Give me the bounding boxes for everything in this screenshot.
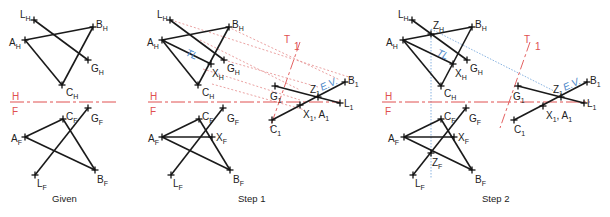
svg-text:AH: AH [386, 37, 398, 50]
svg-text:CH: CH [444, 88, 456, 101]
svg-text:CH: CH [202, 87, 214, 100]
svg-text:BF: BF [233, 174, 244, 187]
fold-label-h: H [385, 91, 392, 102]
top-view: LH BH AH GH CH [9, 9, 108, 100]
svg-text:LH: LH [157, 9, 168, 22]
front-view: CF GF AF XF ZF BF LF [388, 105, 486, 192]
svg-text:XF: XF [458, 132, 469, 145]
svg-text:GH: GH [470, 63, 483, 76]
svg-text:AF: AF [11, 133, 22, 146]
fold-label-1: 1 [294, 41, 300, 52]
svg-text:GH: GH [227, 63, 240, 76]
svg-text:AH: AH [147, 37, 159, 50]
fold-label-f: F [150, 106, 156, 117]
svg-text:CF: CF [444, 111, 456, 124]
svg-text:CF: CF [66, 111, 78, 124]
front-view: CF GF AF BF LF [11, 105, 108, 192]
svg-text:LF: LF [173, 178, 183, 191]
auxiliary-view: B1 Z1 E.V. G1 L1 X1, A1 C1 [269, 75, 359, 137]
svg-text:L1: L1 [587, 98, 597, 111]
svg-text:LF: LF [415, 178, 425, 191]
svg-text:LH: LH [398, 9, 409, 22]
caption-given: Given [52, 193, 77, 204]
fold-label-t: T [284, 34, 290, 45]
auxiliary-view: B1 Z1 E.V. G1 L1 X1, A1 C1 [511, 75, 601, 137]
svg-text:XF: XF [216, 132, 227, 145]
svg-text:C1: C1 [514, 124, 525, 137]
true-length-label: TL [435, 47, 450, 62]
svg-text:LF: LF [37, 178, 47, 191]
caption-step1: Step 1 [238, 193, 265, 204]
svg-text:LH: LH [20, 9, 31, 22]
svg-text:GF: GF [469, 113, 481, 126]
fold-label-f: F [12, 106, 18, 117]
projection-z-aux [431, 29, 560, 94]
svg-text:BF: BF [475, 174, 486, 187]
svg-text:GH: GH [91, 63, 104, 76]
svg-text:AF: AF [148, 133, 159, 146]
svg-text:BH: BH [96, 19, 108, 32]
svg-text:AH: AH [9, 37, 21, 50]
top-view: LH ZH BH AH XH GH CH TL [386, 9, 487, 101]
front-view: CF GF AF XF BF LF [148, 105, 244, 192]
fold-label-h: H [150, 91, 157, 102]
svg-text:ZF: ZF [432, 157, 442, 170]
svg-text:CH: CH [66, 87, 78, 100]
svg-text:BF: BF [97, 174, 108, 187]
svg-text:X1, A1: X1, A1 [546, 110, 572, 123]
fold-label-h: H [12, 91, 19, 102]
svg-text:X1, A1: X1, A1 [303, 109, 329, 122]
svg-text:XH: XH [212, 68, 224, 81]
svg-text:B1: B1 [590, 75, 601, 88]
svg-text:L1: L1 [344, 98, 354, 111]
panel-step1: H F T 1 LH BH AH XH GH CH TL [147, 9, 359, 204]
svg-text:XH: XH [455, 68, 467, 81]
fold-label-1: 1 [535, 41, 541, 52]
panel-given: H F LH BH AH GH CH CF GF [9, 9, 118, 204]
fold-label-t: T [524, 34, 530, 45]
descriptive-geometry-diagram: H F LH BH AH GH CH CF GF [0, 0, 610, 217]
caption-step2: Step 2 [482, 193, 509, 204]
true-length-label: TL [184, 47, 199, 62]
fold-label-f: F [385, 106, 391, 117]
fold-line-t1 [500, 42, 530, 128]
svg-text:CF: CF [202, 111, 214, 124]
svg-text:BH: BH [232, 19, 244, 32]
svg-text:AF: AF [388, 133, 399, 146]
panel-step2: H F T 1 LH ZH BH AH XH GH CH TL [382, 9, 601, 204]
svg-text:GF: GF [227, 113, 239, 126]
svg-text:GF: GF [91, 113, 103, 126]
svg-text:C1: C1 [270, 124, 281, 137]
svg-text:B1: B1 [348, 75, 359, 88]
svg-text:BH: BH [475, 19, 487, 32]
